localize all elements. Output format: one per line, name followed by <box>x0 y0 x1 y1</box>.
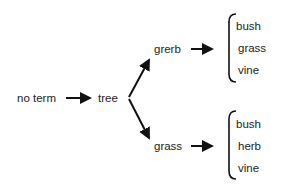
grerb-option: vine <box>238 64 259 76</box>
root-term-label: no term <box>17 92 56 104</box>
grerb-option: bush <box>236 20 261 32</box>
grerb-bracket <box>229 14 236 82</box>
grass-option: herb <box>238 140 261 152</box>
tree-label: tree <box>98 92 118 104</box>
grass-bracket <box>229 111 236 179</box>
tree-to-grerb-arrow <box>129 60 149 97</box>
grass-option: bush <box>236 118 261 130</box>
diagram-canvas: no term tree grerb bush grass vine grass… <box>0 0 287 193</box>
diagram-svg: no term tree grerb bush grass vine grass… <box>0 0 287 193</box>
grass-option: vine <box>238 162 259 174</box>
grerb-option: grass <box>238 42 266 54</box>
branch-label-grass: grass <box>154 140 182 152</box>
branch-label-grerb: grerb <box>154 43 181 55</box>
tree-to-grass-arrow <box>129 99 149 138</box>
